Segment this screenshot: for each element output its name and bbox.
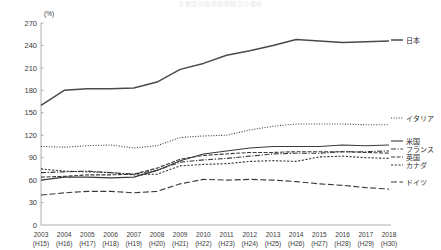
x-axis-era-label: (H18): [102, 240, 119, 248]
x-axis-tick-label: 2016: [335, 231, 350, 238]
x-axis-tick-label: 2003: [34, 231, 49, 238]
y-axis-tick-label: 90: [29, 153, 37, 162]
y-axis-tick-label: 60: [29, 176, 37, 185]
x-axis-era-label: (H26): [288, 240, 305, 248]
x-axis-tick-label: 2013: [266, 231, 281, 238]
chart-container: 主要国の政府債務残高の推移 (%) 0306090120150180210240…: [0, 0, 441, 250]
y-axis-tick-label: 150: [24, 108, 37, 117]
x-axis-tick-label: 2014: [289, 231, 304, 238]
x-axis-tick-label: 2005: [80, 231, 95, 238]
legend-label-3: フランス: [406, 146, 434, 153]
legend-label-4: 英国: [406, 153, 420, 162]
y-axis-tick-label: 120: [24, 131, 37, 140]
x-axis-era-label: (H25): [265, 240, 282, 248]
x-axis-tick-label: 2010: [196, 231, 211, 238]
legend-label-2: 米国: [406, 137, 420, 146]
x-axis-tick-label: 2017: [358, 231, 373, 238]
y-axis-tick-label: 180: [24, 86, 37, 95]
x-axis-era-label: (H19): [126, 240, 143, 248]
legend-label-0: 日本: [406, 36, 420, 45]
x-axis-tick-label: 2009: [173, 231, 188, 238]
x-axis-era-label: (H30): [381, 240, 398, 248]
series-line-6: [41, 179, 389, 195]
x-axis-era-label: (H15): [33, 240, 50, 248]
x-axis-era-label: (H23): [218, 240, 235, 248]
x-axis-era-label: (H27): [311, 240, 328, 248]
y-axis-tick-label: 0: [33, 221, 37, 230]
x-axis-tick-label: 2004: [57, 231, 72, 238]
y-axis-tick-label: 210: [24, 64, 37, 73]
legend-label-6: ドイツ: [406, 179, 427, 186]
legend-label-5: カナダ: [406, 161, 427, 170]
x-axis-tick-label: 2011: [220, 231, 235, 238]
x-axis-tick-label: 2007: [126, 231, 141, 238]
x-axis-era-label: (H20): [149, 240, 166, 248]
x-axis-era-label: (H16): [56, 240, 73, 248]
x-axis-tick-label: 2006: [103, 231, 118, 238]
x-axis-tick-label: 2018: [382, 231, 397, 238]
x-axis-tick-label: 2012: [242, 231, 257, 238]
x-axis-era-label: (H29): [358, 240, 375, 248]
legend-label-1: イタリア: [406, 114, 434, 122]
x-axis-era-label: (H28): [334, 240, 351, 248]
series-line-0: [41, 39, 389, 105]
y-axis-tick-label: 270: [24, 19, 37, 28]
line-chart: 03060901201501802102402702003(H15)2004(H…: [0, 0, 441, 250]
x-axis-era-label: (H22): [195, 240, 212, 248]
x-axis-era-label: (H17): [79, 240, 96, 248]
y-axis-tick-label: 30: [29, 198, 37, 207]
x-axis-tick-label: 2008: [150, 231, 165, 238]
x-axis-era-label: (H24): [242, 240, 259, 248]
series-line-1: [41, 124, 389, 148]
y-axis-tick-label: 240: [24, 41, 37, 50]
x-axis-era-label: (H21): [172, 240, 189, 248]
x-axis-tick-label: 2015: [312, 231, 327, 238]
